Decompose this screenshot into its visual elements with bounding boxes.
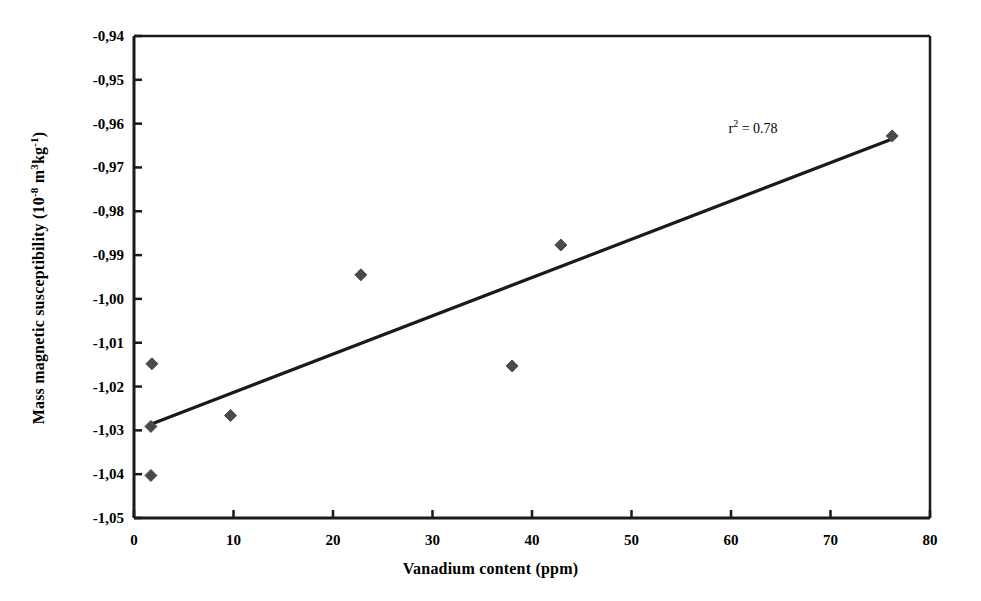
y-axis-title-middle: m bbox=[30, 170, 47, 188]
x-axis-tick-label: 50 bbox=[624, 532, 639, 549]
x-axis-tick-label: 0 bbox=[130, 532, 138, 549]
x-axis-tick-label: 70 bbox=[823, 532, 838, 549]
data-point-marker bbox=[555, 239, 567, 251]
y-axis-title-exponent-2: 3 bbox=[28, 164, 40, 170]
data-point-marker bbox=[146, 358, 158, 370]
y-axis-title-prefix: Mass magnetic susceptibility (10 bbox=[30, 197, 47, 424]
x-axis-tick-label: 40 bbox=[525, 532, 540, 549]
x-axis-tick-label: 30 bbox=[425, 532, 440, 549]
r-squared-annotation: r2 = 0.78 bbox=[728, 121, 777, 137]
x-axis-tick-label: 10 bbox=[226, 532, 241, 549]
scatter-plot-canvas bbox=[0, 0, 981, 601]
x-axis-title: Vanadium content (ppm) bbox=[0, 560, 981, 578]
data-point-marker bbox=[225, 409, 237, 421]
y-axis-title-unit: kg bbox=[30, 147, 47, 164]
x-axis-tick-label: 20 bbox=[326, 532, 341, 549]
y-axis-title-exponent-1: -8 bbox=[28, 188, 40, 198]
data-point-marker bbox=[145, 469, 157, 481]
x-axis-tick-label: 80 bbox=[923, 532, 938, 549]
x-axis-tick-label: 60 bbox=[724, 532, 739, 549]
y-axis-title-exponent-3: -1 bbox=[28, 137, 40, 147]
chart-figure: -0,94-0,95-0,96-0,97-0,98-0,99-1,00-1,01… bbox=[0, 0, 981, 601]
y-axis-title: Mass magnetic susceptibility (10-8 m3kg-… bbox=[30, 28, 52, 528]
trend-line bbox=[151, 139, 892, 424]
r-squared-value: = 0.78 bbox=[738, 121, 777, 136]
data-point-marker bbox=[506, 360, 518, 372]
data-point-marker bbox=[355, 269, 367, 281]
y-axis-title-suffix: ) bbox=[30, 132, 47, 138]
